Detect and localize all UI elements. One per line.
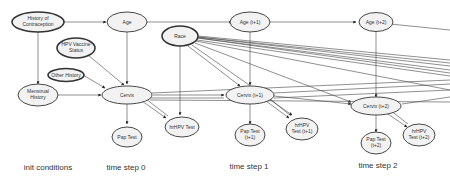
node-cervix-t1: Cervix (t+1) xyxy=(226,86,274,104)
node-pap-test-t1: Pap Test (t+1) xyxy=(235,124,265,146)
svg-text:(t+2): (t+2) xyxy=(371,142,382,148)
label-time-step-1: time step 1 xyxy=(229,162,269,171)
svg-text:Cervix (t+1): Cervix (t+1) xyxy=(237,92,263,98)
svg-text:Cervix (t+2): Cervix (t+2) xyxy=(363,103,389,109)
svg-text:Pap Test: Pap Test xyxy=(117,134,137,140)
svg-text:Contraception: Contraception xyxy=(22,21,53,27)
svg-text:Age: Age xyxy=(123,19,132,25)
label-time-step-0: time step 0 xyxy=(106,163,146,172)
svg-text:Status: Status xyxy=(69,47,84,53)
node-age: Age xyxy=(107,12,147,32)
svg-text:hrHPV Test: hrHPV Test xyxy=(169,124,195,130)
svg-text:Test (t+1): Test (t+1) xyxy=(292,128,313,134)
dbn-diagram: History of Contraception Menstrual Histo… xyxy=(0,0,450,183)
svg-text:(t+1): (t+1) xyxy=(245,134,256,140)
node-age-t1: Age (t+1) xyxy=(230,12,270,32)
node-age-t2: Age (t+2) xyxy=(359,13,393,32)
svg-text:Test (t+2): Test (t+2) xyxy=(409,134,430,140)
label-init-conditions: init conditions xyxy=(24,163,72,172)
svg-text:Cervix: Cervix xyxy=(120,92,135,98)
node-pap-test-t2: Pap Test (t+2) xyxy=(361,132,391,154)
node-history-of-contraception: History of Contraception xyxy=(12,12,64,32)
node-menstrual-history: Menstrual History xyxy=(18,84,58,106)
edges xyxy=(38,22,450,132)
svg-text:Race: Race xyxy=(174,33,186,39)
node-hrhpv-test-t2: hrHPV Test (t+2) xyxy=(403,124,435,146)
node-hpv-vaccine-status: HPV Vaccine Status xyxy=(57,38,95,58)
svg-text:Age (t+2): Age (t+2) xyxy=(366,19,387,25)
node-race: Race xyxy=(162,26,198,46)
svg-text:Age (t+1): Age (t+1) xyxy=(240,19,261,25)
node-cervix: Cervix xyxy=(102,86,152,104)
node-hrhpv-test-t1: hrHPV Test (t+1) xyxy=(286,118,318,140)
node-cervix-t2: Cervix (t+2) xyxy=(351,97,401,115)
svg-text:History: History xyxy=(30,94,46,100)
node-hrhpv-test: hrHPV Test xyxy=(165,117,199,137)
label-time-step-2: time step 2 xyxy=(358,161,398,170)
svg-text:Other History: Other History xyxy=(51,72,81,78)
node-pap-test: Pap Test xyxy=(112,127,142,147)
node-other-history: Other History xyxy=(48,69,84,82)
